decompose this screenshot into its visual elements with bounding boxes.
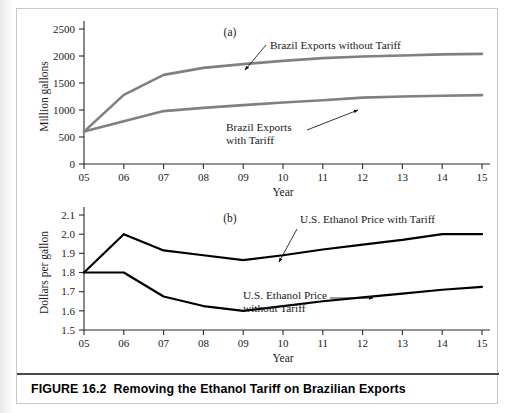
chart-annotation: U.S. Ethanol Price with Tariff	[300, 213, 435, 225]
x-tick-label: 05	[79, 171, 91, 183]
x-tick-label: 12	[357, 337, 368, 349]
y-axis-title: Million gallons	[38, 61, 51, 132]
chart-panel-a: 0500100015002000250005060708091011121314…	[17, 9, 499, 205]
x-tick-label: 06	[118, 171, 130, 183]
y-tick-label: 0	[70, 158, 76, 170]
x-tick-label: 06	[118, 337, 130, 349]
x-tick-label: 09	[238, 171, 250, 183]
y-axis-title: Dollars per gallon	[38, 231, 51, 314]
y-tick-label: 1.9	[61, 247, 75, 259]
y-tick-label: 1.6	[61, 305, 75, 317]
series-line	[84, 234, 482, 272]
chart-annotation: Brazil Exports without Tariff	[270, 39, 401, 51]
x-axis-title: Year	[272, 352, 293, 364]
figure-caption: FIGURE 16.2 Removing the Ethanol Tariff …	[17, 373, 499, 403]
y-tick-label: 1.7	[61, 285, 75, 297]
x-tick-label: 13	[397, 171, 409, 183]
x-tick-label: 09	[238, 337, 250, 349]
x-tick-label: 05	[79, 337, 91, 349]
annotation-arrow	[279, 229, 297, 262]
figure-title: Removing the Ethanol Tariff on Brazilian…	[113, 382, 405, 396]
x-tick-label: 13	[397, 337, 409, 349]
x-tick-label: 15	[477, 171, 489, 183]
x-tick-label: 14	[437, 171, 449, 183]
chart-svg-a: 0500100015002000250005060708091011121314…	[17, 9, 499, 205]
x-tick-label: 14	[437, 337, 449, 349]
x-tick-label: 12	[357, 171, 368, 183]
x-tick-label: 07	[158, 337, 170, 349]
x-tick-label: 10	[278, 171, 290, 183]
panel-label: (a)	[224, 26, 237, 39]
y-tick-label: 1000	[53, 104, 76, 116]
y-tick-label: 1.5	[61, 324, 75, 336]
x-tick-label: 07	[158, 171, 170, 183]
y-tick-label: 500	[59, 131, 76, 143]
x-tick-label: 11	[318, 171, 329, 183]
page-background: 0500100015002000250005060708091011121314…	[0, 0, 508, 413]
x-tick-label: 15	[477, 337, 489, 349]
y-tick-label: 2000	[53, 50, 76, 62]
panel-label: (b)	[223, 212, 237, 225]
x-tick-label: 10	[278, 337, 290, 349]
chart-panel-b: 1.51.61.71.81.92.02.10506070809101112131…	[17, 199, 499, 369]
x-axis-title: Year	[272, 186, 293, 198]
x-tick-label: 11	[318, 337, 329, 349]
y-tick-label: 1500	[53, 77, 76, 89]
figure-container: 0500100015002000250005060708091011121314…	[16, 8, 498, 404]
x-tick-label: 08	[198, 171, 210, 183]
y-tick-label: 2.1	[61, 209, 75, 221]
annotation-arrow	[307, 110, 358, 130]
chart-svg-b: 1.51.61.71.81.92.02.10506070809101112131…	[17, 199, 499, 369]
y-tick-label: 1.8	[61, 266, 75, 278]
y-tick-label: 2.0	[61, 228, 75, 240]
figure-number: FIGURE 16.2	[31, 382, 106, 396]
y-tick-label: 2500	[53, 23, 76, 35]
x-tick-label: 08	[198, 337, 210, 349]
series-line	[84, 54, 482, 132]
annotation-arrow	[245, 45, 266, 70]
chart-annotation: Brazil Exportswith Tariff	[226, 121, 292, 146]
